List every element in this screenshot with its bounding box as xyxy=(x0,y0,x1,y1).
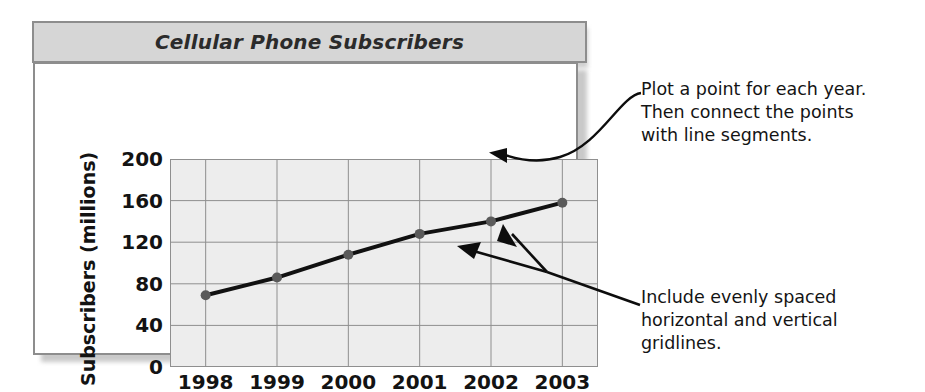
x-tick-label: 2002 xyxy=(463,372,519,392)
data-point-2001 xyxy=(415,229,425,239)
y-axis-tick-labels: 04080120160200 xyxy=(105,146,163,380)
plot-svg xyxy=(170,159,598,367)
data-point-1999 xyxy=(272,273,282,283)
horizontal-gridlines xyxy=(170,201,598,326)
x-tick-label: 2003 xyxy=(534,372,590,392)
data-point-2002 xyxy=(486,216,496,226)
x-tick-label: 2001 xyxy=(392,372,448,392)
data-line xyxy=(206,203,563,296)
x-axis-tick-labels: 199819992000200120022003 xyxy=(170,372,598,392)
x-tick-label: 1998 xyxy=(178,372,234,392)
annotation-plot-points: Plot a point for each year. Then connect… xyxy=(641,78,911,147)
x-tick-label: 2000 xyxy=(320,372,376,392)
chart-frame: Subscribers (millions) 04080120160200 19… xyxy=(33,62,578,355)
x-tick-label: 1999 xyxy=(249,372,305,392)
data-point-2003 xyxy=(557,198,567,208)
y-axis-title: Subscribers (millions) xyxy=(77,156,99,386)
y-tick-label: 120 xyxy=(121,232,163,252)
data-point-1998 xyxy=(201,290,211,300)
chart-title-bar: Cellular Phone Subscribers xyxy=(32,21,587,63)
annotation-gridlines: Include evenly spaced horizontal and ver… xyxy=(641,286,911,355)
y-tick-label: 80 xyxy=(135,274,163,294)
vertical-gridlines xyxy=(206,159,563,367)
chart-figure: Cellular Phone Subscribers Subscribers (… xyxy=(0,0,925,392)
y-tick-label: 200 xyxy=(121,149,163,169)
y-tick-label: 160 xyxy=(121,191,163,211)
data-point-2000 xyxy=(343,250,353,260)
chart-title: Cellular Phone Subscribers xyxy=(155,30,464,54)
y-tick-label: 40 xyxy=(135,315,163,335)
y-tick-label: 0 xyxy=(149,357,163,377)
plot-area-wrapper xyxy=(170,159,598,367)
